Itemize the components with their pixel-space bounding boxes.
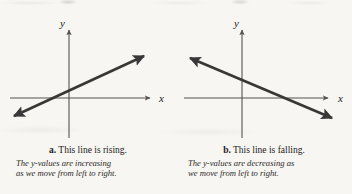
caption-b-heading: b. This line is falling.	[176, 144, 352, 157]
figure-b: y x b. This line is falling. The y-value…	[176, 0, 352, 194]
caption-b-body-line-1: The y-values are decreasing as	[188, 158, 352, 168]
caption-b-marker: b.	[223, 145, 231, 155]
y-axis-label-b: y	[233, 17, 239, 29]
falling-line	[190, 58, 332, 118]
caption-b-heading-text: This line is falling.	[233, 145, 305, 155]
caption-b: b. This line is falling. The y-values ar…	[176, 144, 352, 178]
caption-a-body-line-1: The y-values are increasing	[16, 158, 176, 168]
caption-b-body-line-2: we move from left to right.	[188, 168, 352, 178]
figure-page: y x a. This line is rising. The y-values…	[0, 0, 352, 194]
caption-a: a. This line is rising. The y-values are…	[0, 144, 176, 178]
caption-a-heading-text: This line is rising.	[58, 145, 127, 155]
y-axis-label-a: y	[59, 17, 65, 29]
caption-a-marker: a.	[49, 145, 56, 155]
caption-b-body: The y-values are decreasing as we move f…	[176, 158, 352, 178]
coordinate-plane-b: y x	[176, 8, 352, 140]
coordinate-plane-a: y x	[0, 8, 176, 140]
rising-line	[14, 56, 144, 116]
x-axis-label-a: x	[158, 92, 164, 104]
figure-a: y x a. This line is rising. The y-values…	[0, 0, 176, 194]
x-axis-label-b: x	[337, 92, 343, 104]
caption-a-body-line-2: as we move from left to right.	[16, 168, 176, 178]
caption-a-heading: a. This line is rising.	[0, 144, 176, 157]
caption-a-body: The y-values are increasing as we move f…	[0, 158, 176, 178]
